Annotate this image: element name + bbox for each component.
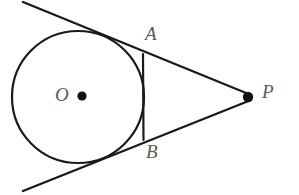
center-point-dot (77, 91, 86, 100)
geometry-diagram: O A B P (0, 0, 299, 195)
label-center-o: O (55, 85, 69, 104)
external-point-dot (243, 92, 253, 102)
label-point-b: B (146, 142, 158, 161)
label-point-a: A (145, 24, 157, 43)
tangent-line-lower (23, 100, 251, 191)
label-point-p: P (262, 82, 274, 101)
tangent-line-upper (23, 2, 251, 95)
chord-ab (143, 54, 144, 140)
